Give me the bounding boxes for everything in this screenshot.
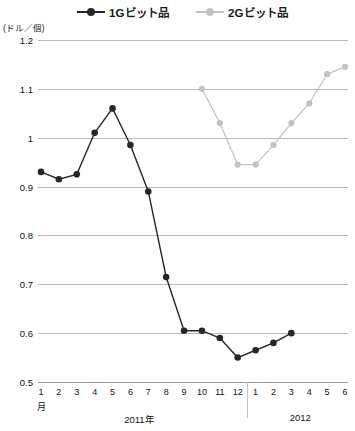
x-axis-tick-label: 2 (271, 387, 276, 397)
data-point-1g (234, 354, 241, 361)
legend-marker-2g-icon (196, 7, 224, 17)
data-point-1g (270, 340, 277, 347)
year-group-label: 2011年 (124, 412, 154, 426)
x-axis-tick-label: 1 (38, 387, 43, 397)
data-point-1g (199, 327, 206, 334)
data-point-2g (270, 142, 276, 148)
data-point-2g (217, 120, 223, 126)
plot-area: 1.21.110.90.80.70.60.5 (38, 40, 348, 382)
x-axis-tick-label: 5 (110, 387, 115, 397)
data-point-2g (342, 64, 348, 70)
y-axis-tick-label: 1.1 (20, 83, 33, 94)
data-point-2g (199, 86, 205, 92)
legend-label-2g: 2Gビット品 (228, 4, 289, 20)
x-axis-tick-label: 6 (342, 387, 347, 397)
y-axis-tick-label: 0.5 (20, 377, 33, 388)
data-point-2g (324, 71, 330, 77)
year-separator (247, 382, 248, 418)
x-axis-line (38, 382, 348, 383)
x-axis-tick-label: 12 (233, 387, 243, 397)
data-point-1g (145, 188, 152, 195)
series-line-1g (41, 108, 291, 357)
x-axis-tick-label: 8 (164, 387, 169, 397)
series-layer (38, 40, 348, 382)
price-trend-line-chart: 1Gビット品 2Gビット品 (ドル／個) 1.21.110.90.80.70.6… (0, 0, 355, 431)
x-axis-month-unit: 月 (37, 400, 46, 413)
data-point-1g (38, 169, 45, 176)
data-point-2g (306, 100, 312, 106)
data-point-1g (127, 142, 134, 149)
chart-footnote (170, 421, 355, 430)
data-point-1g (252, 347, 259, 354)
y-axis-tick-label: 1.2 (20, 35, 33, 46)
data-point-1g (109, 105, 116, 112)
x-axis-tick-label: 9 (182, 387, 187, 397)
x-axis-tick-label: 3 (289, 387, 294, 397)
x-axis-tick-label: 7 (146, 387, 151, 397)
y-axis-tick-label: 0.8 (20, 230, 33, 241)
data-point-2g (235, 161, 241, 167)
data-point-1g (56, 176, 63, 183)
y-axis-tick-label: 1 (28, 132, 33, 143)
data-point-1g (73, 171, 80, 178)
data-point-2g (252, 161, 258, 167)
x-axis-tick-label: 11 (215, 387, 224, 397)
x-axis-tick-label: 4 (92, 387, 97, 397)
x-axis-tick-label: 2 (56, 387, 61, 397)
legend-item-1g[interactable]: 1Gビット品 (77, 4, 170, 20)
data-point-2g (288, 120, 294, 126)
y-axis-tick-label: 0.6 (20, 328, 33, 339)
x-axis-tick-label: 6 (128, 387, 133, 397)
legend-label-1g: 1Gビット品 (109, 4, 170, 20)
data-point-1g (181, 327, 188, 334)
chart-legend: 1Gビット品 2Gビット品 (0, 4, 355, 22)
data-point-1g (288, 330, 295, 337)
x-axis-tick-label: 4 (307, 387, 312, 397)
series-line-2g (202, 67, 345, 165)
y-axis-unit-label: (ドル／個) (3, 21, 45, 33)
data-point-1g (217, 335, 224, 342)
x-axis-tick-label: 3 (74, 387, 79, 397)
legend-marker-1g-icon (77, 7, 105, 17)
legend-item-2g[interactable]: 2Gビット品 (196, 4, 289, 20)
x-axis-tick-label: 10 (197, 387, 207, 397)
y-axis-tick-label: 0.9 (20, 181, 33, 192)
x-axis-tick-label: 1 (253, 387, 258, 397)
data-point-1g (163, 274, 170, 281)
x-axis-tick-label: 5 (325, 387, 330, 397)
data-point-1g (91, 130, 98, 137)
y-axis-tick-label: 0.7 (20, 279, 33, 290)
